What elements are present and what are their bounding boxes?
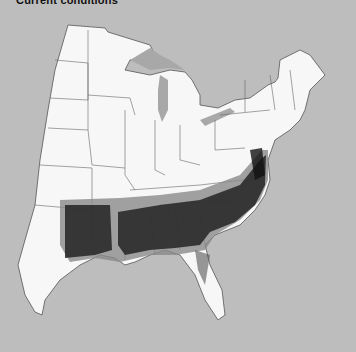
map-canvas [0, 0, 356, 352]
eastern-us-landmass [18, 25, 325, 320]
